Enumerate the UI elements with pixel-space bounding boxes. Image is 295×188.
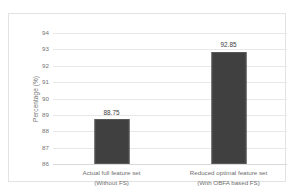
y-tick-label-86: 86 [23,161,49,167]
x-category-label-line: (Without FS) [53,178,170,188]
y-tick-label-94: 94 [23,30,49,36]
x-axis-category-labels: Actual full feature set(Without FS)Reduc… [53,168,287,188]
bar-slot: 88.75 [53,33,170,164]
y-tick-label-88: 88 [23,128,49,134]
y-tick-label-90: 90 [23,95,49,101]
y-tick-label-91: 91 [23,79,49,85]
bar-value-label: 92.85 [221,42,237,48]
gridline-86 [53,164,287,165]
y-tick-label-89: 89 [23,112,49,118]
bar[interactable] [94,119,129,164]
x-category-label-line: Reduced optimal feature set [170,168,287,178]
bar[interactable] [211,52,246,164]
x-category-label: Reduced optimal feature set(With OBFA ba… [170,168,287,187]
plot-area: 88.7592.85 [53,33,287,164]
x-category-label: Actual full feature set(Without FS) [53,168,170,187]
y-axis-tick-labels: 949392919089888786 [23,33,49,164]
y-tick-label-93: 93 [23,46,49,52]
bar-slot: 92.85 [170,33,287,164]
x-category-label-line: Actual full feature set [53,168,170,178]
chart-frame: Percentage (%) 949392919089888786 88.759… [8,13,286,182]
bar-value-label: 88.75 [104,110,120,116]
x-category-label-line: (With OBFA based FS) [170,178,287,188]
y-tick-label-92: 92 [23,63,49,69]
y-tick-label-87: 87 [23,145,49,151]
